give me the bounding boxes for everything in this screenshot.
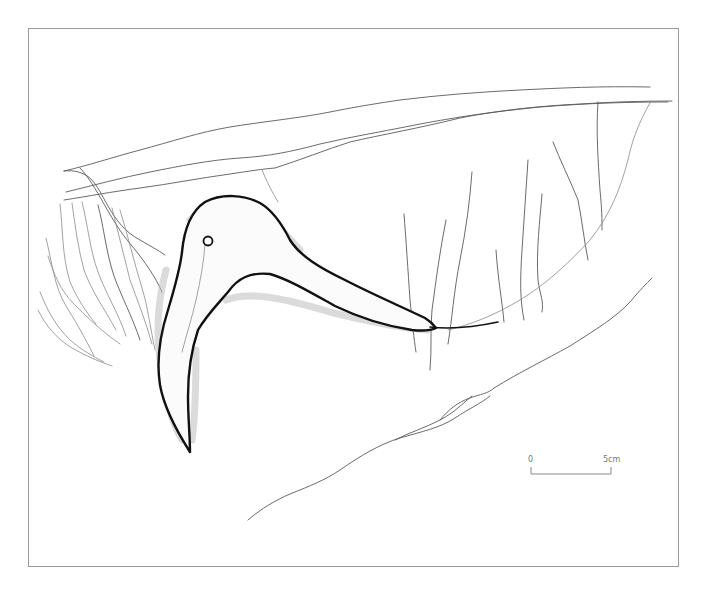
scale-bar — [531, 467, 611, 474]
scale-start-label: 0 — [528, 455, 533, 464]
beak-tip-line — [430, 322, 498, 328]
lower-diagonal-crack — [248, 278, 652, 520]
vertical-cracks — [262, 102, 650, 370]
bird-figure-outline — [158, 196, 436, 452]
scale-end-label: 5cm — [603, 455, 620, 464]
eye-icon — [204, 237, 213, 246]
upper-ledge-lines — [64, 87, 672, 200]
rock-art-drawing — [0, 0, 707, 597]
left-strata-lines — [38, 168, 165, 366]
